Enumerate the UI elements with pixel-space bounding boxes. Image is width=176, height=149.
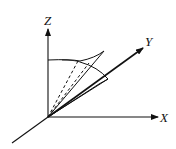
x-axis-label: X <box>159 110 169 125</box>
negative-axis-line <box>12 117 48 143</box>
solid-ray-lower <box>48 84 99 117</box>
dashed-ray-1 <box>48 61 78 117</box>
y-axis-label: Y <box>145 34 154 49</box>
coordinate-diagram: Z X Y <box>0 0 176 149</box>
dashed-ray-2 <box>48 63 89 117</box>
y-axis <box>48 48 143 117</box>
wedge-top-curve <box>48 51 104 61</box>
z-axis-label: Z <box>44 13 52 28</box>
